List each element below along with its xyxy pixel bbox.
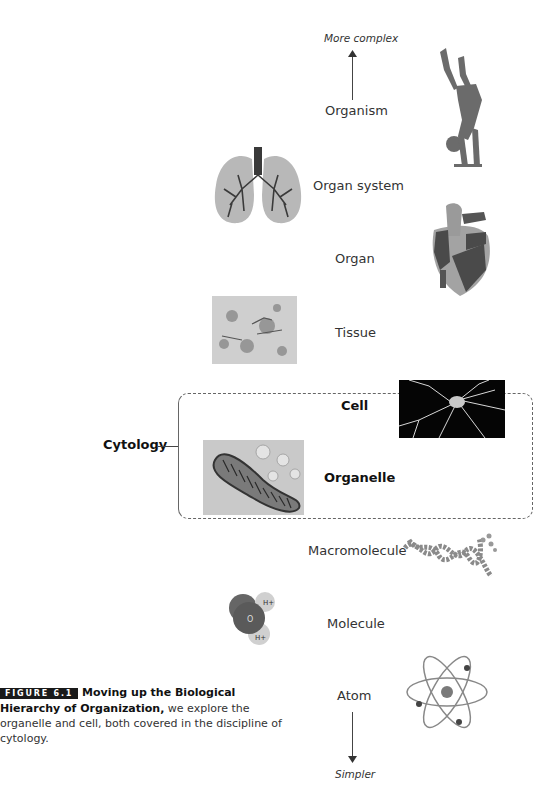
simpler-label: Simpler [335,768,375,780]
level-molecule: Molecule [327,616,385,631]
level-macromolecule: Macromolecule [308,543,407,558]
level-atom: Atom [337,688,371,703]
dna-helix-icon [403,530,498,580]
level-organ: Organ [335,251,375,266]
hydrogen-label-2: H+ [255,634,266,642]
level-cell: Cell [341,398,368,413]
up-arrow [352,54,353,100]
level-tissue: Tissue [335,325,376,340]
hydrogen-label-1: H+ [263,599,274,607]
figure-number-tag: FIGURE 6.1 [0,688,78,699]
level-organ-system: Organ system [313,178,404,193]
mitochondrion-micrograph [203,440,304,515]
up-arrowhead-icon [348,50,357,58]
oxygen-label: O [247,615,253,624]
heart-icon [420,200,500,300]
down-arrowhead-icon [348,756,357,764]
atom-icon [405,650,490,735]
water-molecule-icon: H+ O H+ [225,590,285,650]
tissue-micrograph [212,296,297,364]
cytology-connector [158,446,178,447]
lungs-icon [208,145,308,227]
neuron-micrograph [399,380,505,438]
level-organelle: Organelle [324,470,395,485]
down-arrow [352,712,353,758]
cytology-label: Cytology [103,437,167,452]
figure-caption: FIGURE 6.1Moving up the Biological Hiera… [0,685,290,746]
more-complex-label: More complex [324,32,398,44]
handstand-person-icon [428,40,508,170]
level-organism: Organism [325,103,388,118]
